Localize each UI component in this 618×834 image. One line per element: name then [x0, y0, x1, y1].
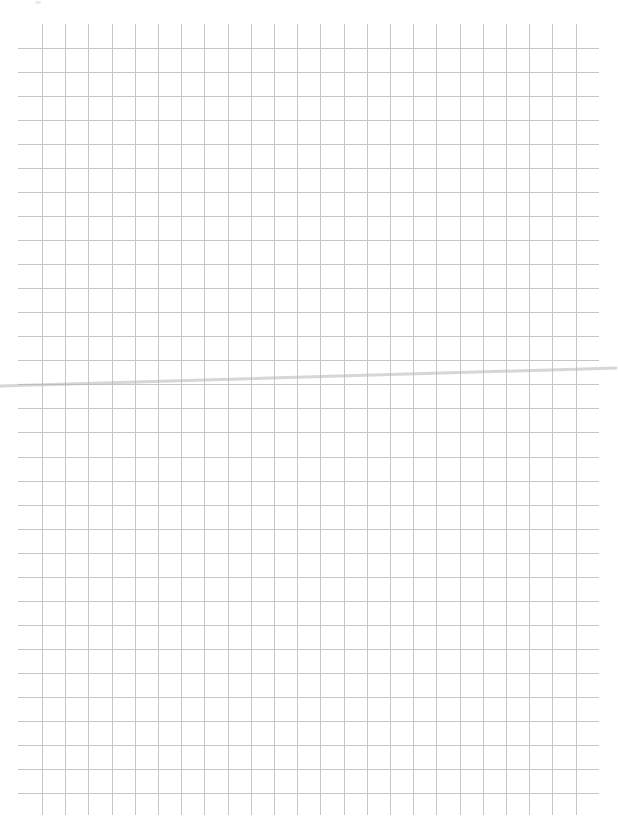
grid — [0, 0, 618, 834]
scan-artifact — [35, 1, 41, 4]
vertical-grid-lines — [43, 24, 577, 815]
graph-paper-sheet — [0, 0, 618, 834]
horizontal-grid-lines — [18, 49, 599, 794]
paper-crease — [0, 368, 616, 386]
